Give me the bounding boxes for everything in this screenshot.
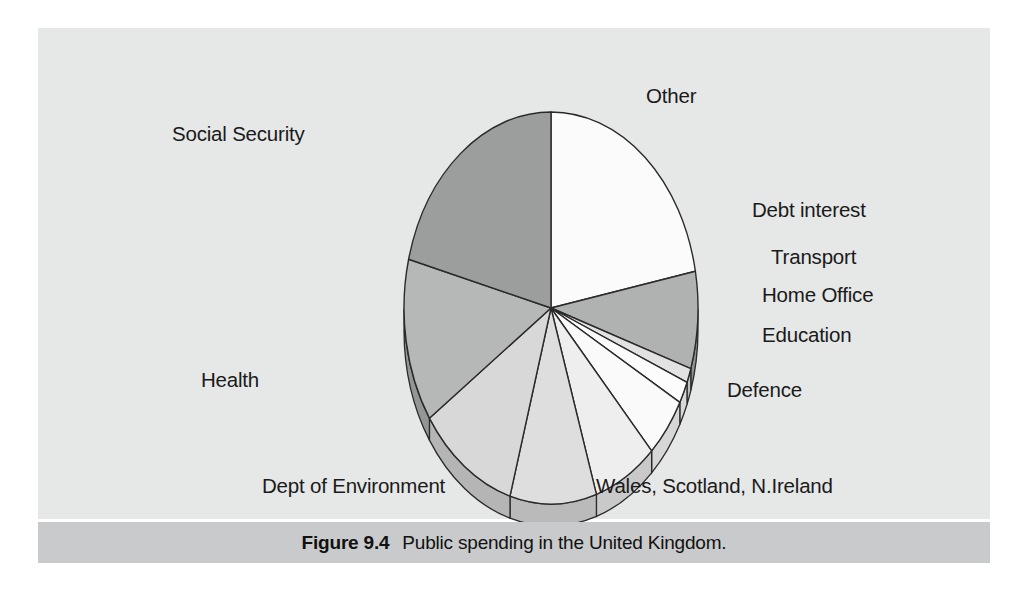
figure-caption-text: Public spending in the United Kingdom. <box>402 532 726 553</box>
pie-top-slices <box>404 112 698 504</box>
pie-label-wales-scotland-nireland: Wales, Scotland, N.Ireland <box>596 474 833 498</box>
pie-label-transport: Transport <box>771 245 856 269</box>
figure-caption-bar: Figure 9.4Public spending in the United … <box>38 522 990 563</box>
pie-slice-dept-of-environment <box>429 308 551 496</box>
pie-label-debt-interest: Debt interest <box>752 198 866 222</box>
pie-slice-side-debt-interest <box>691 309 698 391</box>
pie-chart-svg <box>38 28 1027 597</box>
pie-label-other: Other <box>646 84 696 108</box>
pie-slice-health <box>404 259 551 418</box>
pie-slice-debt-interest <box>551 271 698 368</box>
pie-slice-wales-scotland-n-ireland <box>510 308 596 504</box>
pie-label-social-security: Social Security <box>172 122 305 146</box>
pie-slice-side-dept-of-environment <box>429 418 510 518</box>
pie-label-dept-of-environment: Dept of Environment <box>262 474 445 498</box>
pie-label-defence: Defence <box>727 378 802 402</box>
pie-label-health: Health <box>201 368 259 392</box>
figure-caption: Figure 9.4Public spending in the United … <box>302 532 727 554</box>
pie-label-education: Education <box>762 323 851 347</box>
pie-slice-other <box>551 112 695 308</box>
pie-slice-education <box>551 308 680 451</box>
pie-slice-social-security <box>409 112 551 308</box>
pie-chart <box>38 28 1027 597</box>
pie-slice-transport <box>551 308 691 382</box>
figure-panel: OtherSocial SecurityDebt interestTranspo… <box>38 28 990 519</box>
figure-root: OtherSocial SecurityDebt interestTranspo… <box>0 0 1027 597</box>
pie-slice-side-transport <box>687 369 691 405</box>
pie-slice-defence <box>551 308 652 494</box>
pie-label-home-office: Home Office <box>762 283 873 307</box>
pie-slice-side-home-office <box>680 382 687 424</box>
figure-caption-number: Figure 9.4 <box>302 532 390 553</box>
pie-slice-side-health <box>404 309 429 440</box>
pie-slice-side-education <box>652 402 680 472</box>
pie-slice-home-office <box>551 308 687 402</box>
